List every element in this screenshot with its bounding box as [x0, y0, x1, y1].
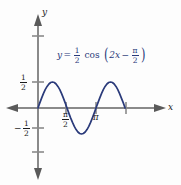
denominator: 2 [23, 130, 30, 138]
equation-minus-sign: − [122, 51, 130, 60]
minus-sign: − [14, 124, 22, 133]
y-tick-label-negative-one-half: − 1 2 [14, 120, 31, 137]
numerator: 1 [23, 120, 30, 128]
equation-equals: = [64, 51, 72, 60]
equation-phase-numerator: π [132, 47, 139, 55]
equation-coefficient-numerator: 1 [74, 47, 81, 55]
equation-close-paren: ) [140, 48, 145, 62]
equation-open-paren: ( [104, 48, 109, 62]
numerator: 1 [20, 74, 27, 82]
one-half-fraction: 1 2 [20, 74, 27, 91]
equation-coefficient-fraction: 1 2 [74, 47, 81, 64]
numerator: π [62, 111, 69, 119]
y-axis-arrow-down [34, 168, 42, 180]
denominator: 2 [62, 121, 69, 129]
x-axis-label: x [168, 103, 173, 112]
one-half-fraction: 1 2 [23, 120, 30, 137]
denominator: 2 [20, 84, 27, 92]
graph-figure: y x y = 1 2 cos ( 2x − π 2 ) 1 2 − 1 [0, 0, 181, 185]
pi-over-two-fraction: π 2 [62, 111, 69, 128]
equation-label: y = 1 2 cos ( 2x − π 2 ) [57, 47, 146, 64]
x-axis-arrow-left [6, 104, 18, 112]
equation-function-name: cos [84, 51, 99, 60]
x-tick-label-pi-over-two: π 2 [61, 111, 70, 128]
equation-lhs: y [57, 51, 62, 60]
y-axis-label: y [42, 8, 47, 17]
equation-coefficient-denominator: 2 [74, 57, 81, 65]
x-tick-label-pi: π [93, 113, 99, 122]
y-tick-label-one-half: 1 2 [19, 74, 28, 91]
equation-phase-fraction: π 2 [132, 47, 139, 64]
equation-inner-term: 2x [109, 51, 120, 60]
plot-canvas [0, 0, 181, 185]
x-axis-arrow-right [154, 104, 166, 112]
equation-phase-denominator: 2 [132, 57, 139, 65]
y-axis-arrow-up [34, 14, 42, 26]
